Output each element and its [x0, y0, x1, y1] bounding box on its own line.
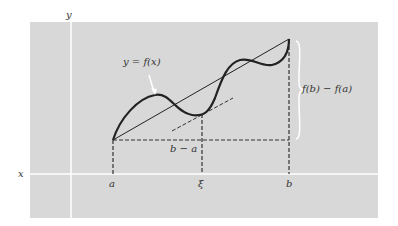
- point-a-label: a: [109, 179, 115, 189]
- run-label: b − a: [170, 144, 197, 154]
- y-axis-label: y: [66, 10, 72, 20]
- x-axis-label: x: [18, 169, 24, 179]
- diagram-canvas: [0, 0, 398, 226]
- point-b-label: b: [286, 179, 292, 189]
- point-xi-label: ξ: [198, 179, 204, 189]
- plot-background: [30, 22, 378, 218]
- rise-label: f(b) − f(a): [302, 84, 352, 94]
- curve-label: y = f(x): [123, 57, 161, 67]
